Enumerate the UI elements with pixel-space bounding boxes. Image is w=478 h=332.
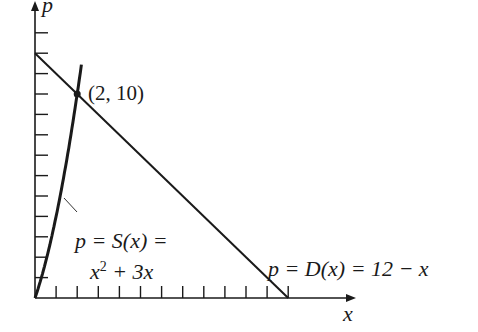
- chart-canvas: [0, 0, 478, 332]
- demand-label: p = D(x) = 12 − x: [268, 258, 429, 280]
- demand-line: [35, 53, 288, 298]
- supply-x: x: [90, 259, 100, 284]
- supply-label-line2: x2 + 3x: [90, 260, 153, 283]
- intersection-label: (2, 10): [88, 83, 144, 104]
- supply-rest: + 3x: [107, 259, 154, 284]
- supply-label-line1: p = S(x) =: [75, 230, 168, 252]
- intersection-point: [74, 91, 81, 98]
- x-axis-label: x: [343, 303, 353, 325]
- supply-exponent: 2: [100, 259, 107, 274]
- y-axis-label: p: [42, 0, 53, 16]
- supply-label-leader: [64, 198, 77, 212]
- axis-ticks: [35, 33, 288, 298]
- supply-curve: [35, 65, 81, 298]
